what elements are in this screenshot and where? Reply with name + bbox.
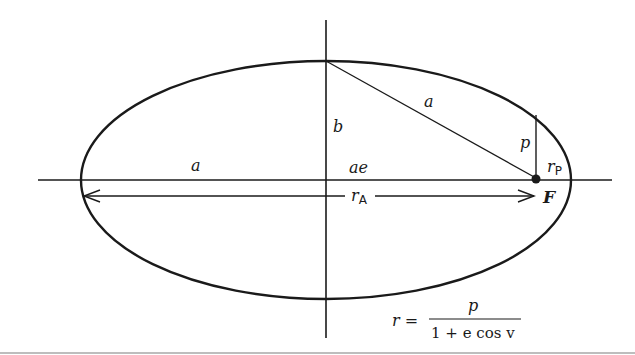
ellipse-orbit-diagram: a a b ae p rP rA F r = p 1 + e cos v xyxy=(0,0,635,355)
focus-point xyxy=(532,175,541,184)
label-rp: rP xyxy=(547,157,562,178)
label-ae: ae xyxy=(349,158,368,177)
label-a-left: a xyxy=(191,156,201,175)
equation-lhs: r = xyxy=(392,311,418,330)
diagram-svg: a a b ae p rP rA F r = p 1 + e cos v xyxy=(0,0,635,355)
label-rp-sub: P xyxy=(555,164,562,178)
label-b: b xyxy=(333,117,343,136)
label-focus: F xyxy=(542,187,557,207)
label-ra: rA xyxy=(351,186,368,207)
label-a-diagonal: a xyxy=(424,92,434,111)
label-ra-sub: A xyxy=(359,193,368,207)
label-p: p xyxy=(520,133,530,152)
equation-numerator: p xyxy=(468,296,478,315)
equation-denominator: 1 + e cos v xyxy=(431,324,515,342)
